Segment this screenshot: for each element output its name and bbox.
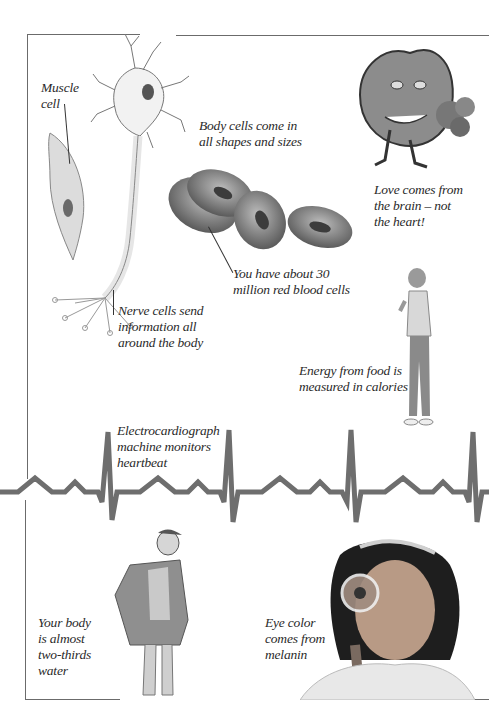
girl-magnifier-illustration xyxy=(300,535,475,700)
frame-top-right xyxy=(176,35,489,36)
cartoon-heart-illustration xyxy=(355,45,485,175)
caption-ecg: Electrocardiograph machine monitors hear… xyxy=(117,423,220,471)
red-blood-cells-illustration xyxy=(165,165,355,260)
caption-muscle-cell: Muscle cell xyxy=(41,80,79,112)
caption-nerve-cells: Nerve cells send information all around … xyxy=(118,303,203,351)
caption-body-cells: Body cells come in all shapes and sizes xyxy=(199,118,302,150)
frame-bottom-left xyxy=(25,699,120,700)
caption-energy: Energy from food is measured in calories xyxy=(299,363,408,395)
caption-love: Love comes from the brain – not the hear… xyxy=(374,182,463,230)
caption-red-blood-cells: You have about 30 million red blood cell… xyxy=(233,266,350,298)
boy-eating-illustration xyxy=(395,266,440,426)
caption-eye-color: Eye color comes from melanin xyxy=(265,615,325,663)
frame-left-upper xyxy=(27,34,28,479)
nerve-cell-leader-line xyxy=(113,290,114,315)
caption-water: Your body is almost two-thirds water xyxy=(38,615,91,679)
man-in-robe-illustration xyxy=(110,525,195,705)
ecg-trace-illustration xyxy=(0,420,489,525)
frame-left-lower xyxy=(25,500,26,700)
